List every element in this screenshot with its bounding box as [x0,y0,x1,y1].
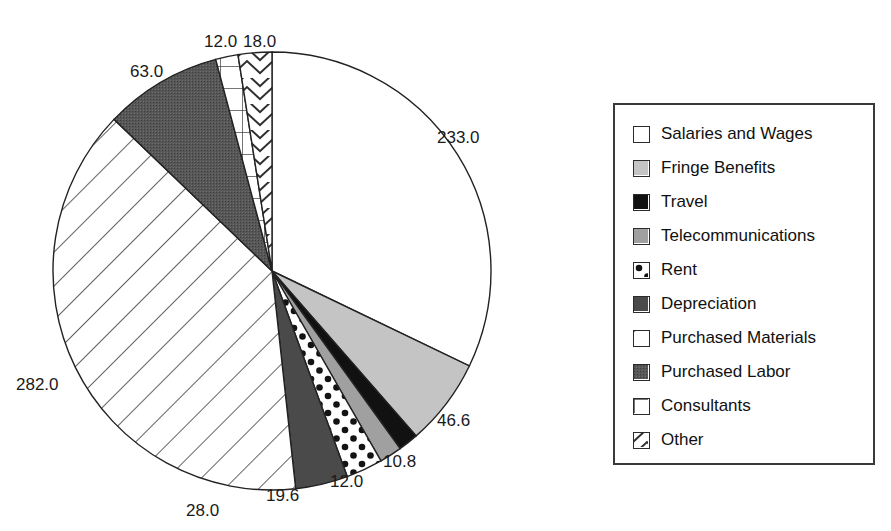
legend-item-label: Telecommunications [661,226,815,246]
legend-item-purchased-labor[interactable]: Purchased Labor [633,355,869,389]
legend-item-salaries-and-wages[interactable]: Salaries and Wages [633,117,869,151]
legend-swatch-icon [633,126,650,143]
legend-item-label: Consultants [661,396,751,416]
legend-item-fringe-benefits[interactable]: Fringe Benefits [633,151,869,185]
pie-data-label: 19.6 [266,486,299,506]
legend-item-depreciation[interactable]: Depreciation [633,287,869,321]
pie-data-label: 10.8 [383,452,416,472]
legend-swatch-icon [633,364,650,381]
legend-item-list: Salaries and WagesFringe BenefitsTravelT… [633,117,869,457]
pie-data-label: 46.6 [437,411,470,431]
legend-swatch-icon [633,296,650,313]
legend-swatch-icon [633,432,650,449]
legend-item-label: Fringe Benefits [661,158,775,178]
legend-item-label: Other [661,430,704,450]
pie-data-label: 282.0 [16,375,59,395]
pie-data-label: 63.0 [130,62,163,82]
pie-data-label: 12.0 [204,32,237,52]
legend-item-label: Travel [661,192,708,212]
legend-item-rent[interactable]: Rent [633,253,869,287]
legend-item-label: Purchased Labor [661,362,790,382]
legend-item-label: Depreciation [661,294,756,314]
pie-data-label: 28.0 [186,501,219,521]
legend-swatch-icon [633,160,650,177]
pie-chart-figure: 233.046.610.812.019.628.0282.063.012.018… [0,0,891,531]
legend-item-travel[interactable]: Travel [633,185,869,219]
chart-legend: Salaries and WagesFringe BenefitsTravelT… [613,103,875,465]
legend-item-consultants[interactable]: Consultants [633,389,869,423]
legend-swatch-icon [633,330,650,347]
legend-swatch-icon [633,398,650,415]
pie-data-label: 12.0 [330,472,363,492]
legend-item-other[interactable]: Other [633,423,869,457]
legend-item-label: Rent [661,260,697,280]
legend-item-label: Salaries and Wages [661,124,813,144]
pie-data-label: 233.0 [437,128,480,148]
legend-swatch-icon [633,194,650,211]
pie-slice-group [53,52,491,490]
pie-data-label: 18.0 [243,32,276,52]
legend-swatch-icon [633,228,650,245]
legend-swatch-icon [633,262,650,279]
legend-item-label: Purchased Materials [661,328,816,348]
legend-item-telecommunications[interactable]: Telecommunications [633,219,869,253]
legend-item-purchased-materials[interactable]: Purchased Materials [633,321,869,355]
